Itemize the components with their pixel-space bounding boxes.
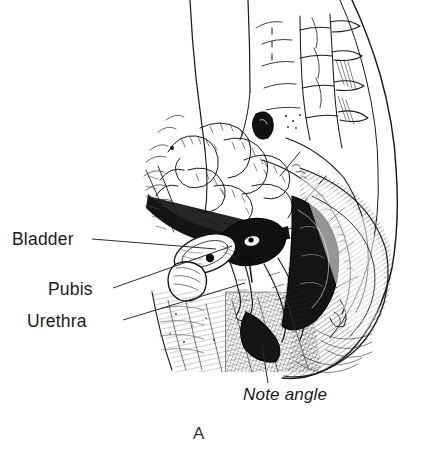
pubis-leader [113, 246, 232, 288]
label-urethra: Urethra [27, 311, 87, 332]
figure-panel: Bladder Pubis Urethra Note angle A [0, 0, 425, 457]
urethra-leader [123, 283, 245, 320]
label-note-angle: Note angle [243, 385, 327, 405]
label-bladder: Bladder [12, 229, 74, 250]
panel-label: A [193, 424, 205, 444]
label-pubis: Pubis [48, 279, 93, 300]
note-angle-leader [262, 345, 268, 383]
bladder-leader [92, 239, 216, 249]
